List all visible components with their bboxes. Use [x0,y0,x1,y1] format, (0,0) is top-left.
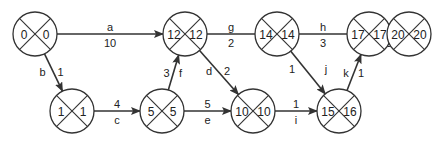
late-time: 17 [373,28,387,42]
network-diagram: a10b1c4f3e5d2g2h3j1i1k1l3 00121214141717… [0,0,434,141]
early-time: 0 [21,28,28,42]
edge-k: k1 [343,54,364,90]
event-node-n0: 00 [13,12,57,56]
edge-f: f3 [163,55,183,90]
duration-label: 1 [358,67,364,79]
event-node-n14: 1414 [255,12,299,56]
duration-label: 1 [293,98,299,110]
early-time: 12 [167,28,181,42]
activity-label: c [114,114,120,126]
early-time: 17 [351,28,365,42]
duration-label: 1 [289,63,295,75]
late-time: 1 [80,105,87,119]
event-node-n10: 1010 [231,89,275,133]
late-time: 5 [170,105,177,119]
event-node-n5: 55 [140,89,184,133]
late-time: 14 [281,28,295,42]
activity-label: d [206,65,212,77]
duration-label: 4 [114,98,120,110]
late-time: 10 [257,105,271,119]
activity-label: g [228,21,234,33]
duration-label: 5 [204,98,210,110]
nodes-layer: 001212141417172020115510101516 [13,12,431,133]
activity-label: f [179,67,183,79]
edge-h: h3 [299,21,347,49]
early-time: 15 [321,105,335,119]
activity-label: j [324,63,327,75]
late-time: 16 [343,105,357,119]
edge-line-j [291,51,325,94]
activity-label: h [320,21,326,33]
edge-g: g2 [207,21,255,49]
activity-label: b [39,66,45,78]
edge-d: d2 [200,50,239,94]
edge-a: a10 [57,21,163,49]
early-time: 14 [259,28,273,42]
early-time: 20 [391,28,405,42]
late-time: 20 [413,28,427,42]
early-time: 5 [148,105,155,119]
early-time: 1 [58,105,65,119]
edge-c: c4 [94,98,140,126]
event-node-n15: 1516 [317,89,361,133]
event-node-n17: 1717 [347,12,391,56]
event-node-n1: 11 [50,89,94,133]
event-node-n20: 2020 [387,12,431,56]
activity-label: e [204,114,210,126]
duration-label: 3 [163,67,169,79]
duration-label: 2 [228,37,234,49]
edge-i: i1 [275,98,317,126]
duration-label: 1 [57,66,63,78]
early-time: 10 [235,105,249,119]
duration-label: 10 [104,37,116,49]
edge-j: j1 [289,51,327,94]
duration-label: 3 [320,37,326,49]
activity-label: a [107,21,114,33]
edge-e: e5 [184,98,231,126]
activity-label: i [295,114,297,126]
edge-b: b1 [39,54,63,91]
duration-label: 2 [224,65,230,77]
event-node-n12: 1212 [163,12,207,56]
late-time: 0 [43,28,50,42]
late-time: 12 [189,28,203,42]
activity-label: k [343,67,349,79]
edge-line-f [168,55,178,90]
